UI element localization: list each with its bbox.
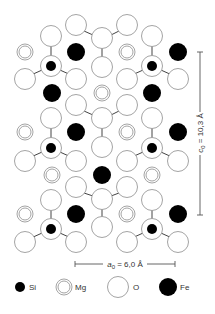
magnesium-atom	[119, 206, 135, 222]
oxygen-atom	[92, 28, 113, 49]
oxygen-atom	[41, 190, 62, 211]
o-legend-label: O	[133, 283, 139, 292]
oxygen-atom	[41, 26, 62, 47]
o-o-bond	[84, 111, 93, 115]
o-legend-icon	[108, 277, 129, 298]
silicon-atom	[147, 224, 157, 234]
legend-item-fe: Fe	[159, 278, 190, 296]
magnesium-atom	[144, 167, 160, 183]
fe-legend-icon	[159, 278, 177, 296]
legend-item-o: O	[108, 277, 140, 298]
oxygen-atom	[66, 15, 87, 36]
c0-scale-bar: c0 = 10,3 Å	[196, 52, 206, 215]
a0-scale-label: a0 = 6,0 Å	[107, 260, 143, 270]
silicon-atom	[46, 143, 56, 153]
oxygen-atom	[15, 151, 36, 172]
magnesium-atom	[119, 44, 135, 60]
iron-atom	[67, 205, 85, 223]
magnesium-atom	[119, 124, 135, 140]
magnesium-atom	[17, 206, 33, 222]
c0-scale-label: c0 = 10,3 Å	[196, 113, 206, 153]
magnesium-atom	[94, 85, 110, 101]
si-legend-label: Si	[29, 283, 36, 292]
oxygen-atom	[117, 15, 138, 36]
oxygen-atom	[117, 177, 138, 198]
legend: Si Mg O Fe	[15, 277, 190, 298]
oxygen-atom	[142, 190, 163, 211]
oxygen-atom	[92, 189, 113, 210]
silicon-atom	[46, 224, 56, 234]
magnesium-atom	[17, 124, 33, 140]
oxygen-atom	[92, 137, 113, 158]
oxygen-atom	[66, 177, 87, 198]
iron-atom	[67, 43, 85, 61]
magnesium-atom	[17, 44, 33, 60]
silicon-atom	[147, 143, 157, 153]
oxygen-atom	[66, 151, 87, 172]
oxygen-atom	[15, 232, 36, 253]
iron-atom	[169, 43, 187, 61]
iron-atom	[169, 123, 187, 141]
si-legend-icon	[15, 282, 25, 292]
iron-atom	[67, 123, 85, 141]
legend-item-mg: Mg	[56, 279, 86, 295]
oxygen-atom	[168, 151, 189, 172]
olivine-structure-diagram: c0 = 10,3 Å a0 = 6,0 Å Si Mg O Fe	[0, 0, 215, 314]
iron-atom	[43, 84, 61, 102]
oxygen-atom	[66, 232, 87, 253]
oxygen-atom	[66, 95, 87, 116]
iron-atom	[143, 84, 161, 102]
oxygen-atom	[92, 108, 113, 129]
o-o-bond	[84, 31, 93, 35]
iron-atoms-layer	[43, 43, 187, 223]
silicon-atom	[46, 61, 56, 71]
oxygen-atom	[117, 95, 138, 116]
magnesium-atoms-layer	[17, 44, 160, 222]
legend-item-si: Si	[15, 282, 36, 292]
fe-legend-label: Fe	[180, 283, 190, 292]
oxygen-atom	[92, 217, 113, 238]
silicon-atom	[147, 61, 157, 71]
magnesium-atom	[44, 167, 60, 183]
oxygen-atom	[41, 108, 62, 129]
oxygen-atom	[168, 232, 189, 253]
oxygen-atom	[66, 69, 87, 90]
a0-scale-bar: a0 = 6,0 Å	[75, 260, 175, 270]
mg-legend-label: Mg	[75, 283, 86, 292]
oxygen-atom	[117, 232, 138, 253]
oxygen-atom	[117, 69, 138, 90]
iron-atom	[93, 166, 111, 184]
oxygen-atom	[117, 151, 138, 172]
oxygen-atom	[15, 69, 36, 90]
oxygen-atom	[92, 57, 113, 78]
iron-atom	[169, 205, 187, 223]
oxygen-atom	[168, 69, 189, 90]
oxygen-atom	[142, 26, 163, 47]
oxygen-atom	[142, 108, 163, 129]
